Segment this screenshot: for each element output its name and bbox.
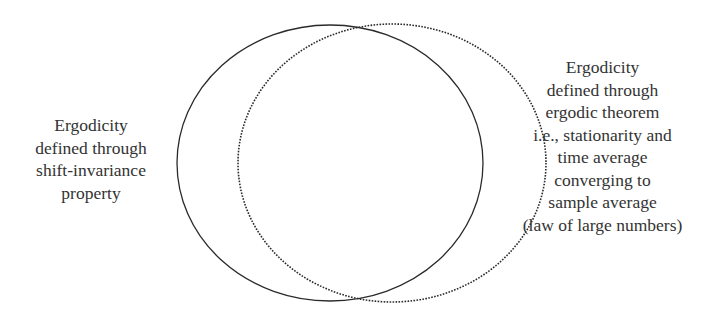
- left-label-line: property: [2, 182, 180, 205]
- right-label-line: Ergodicity: [480, 56, 725, 79]
- left-ellipse: [177, 25, 483, 301]
- left-set-label: Ergodicity defined through shift-invaria…: [2, 114, 180, 204]
- right-label-line: i.e., stationarity and: [480, 124, 725, 147]
- left-label-line: defined through: [2, 137, 180, 160]
- left-label-line: Ergodicity: [2, 114, 180, 137]
- right-label-line: defined through: [480, 79, 725, 102]
- left-label-line: shift-invariance: [2, 159, 180, 182]
- right-label-line: ergodic theorem: [480, 101, 725, 124]
- right-label-line: time average: [480, 146, 725, 169]
- right-label-line: sample average: [480, 191, 725, 214]
- right-label-line: (law of large numbers): [480, 214, 725, 237]
- right-label-line: converging to: [480, 169, 725, 192]
- right-set-label: Ergodicity defined through ergodic theor…: [480, 56, 725, 236]
